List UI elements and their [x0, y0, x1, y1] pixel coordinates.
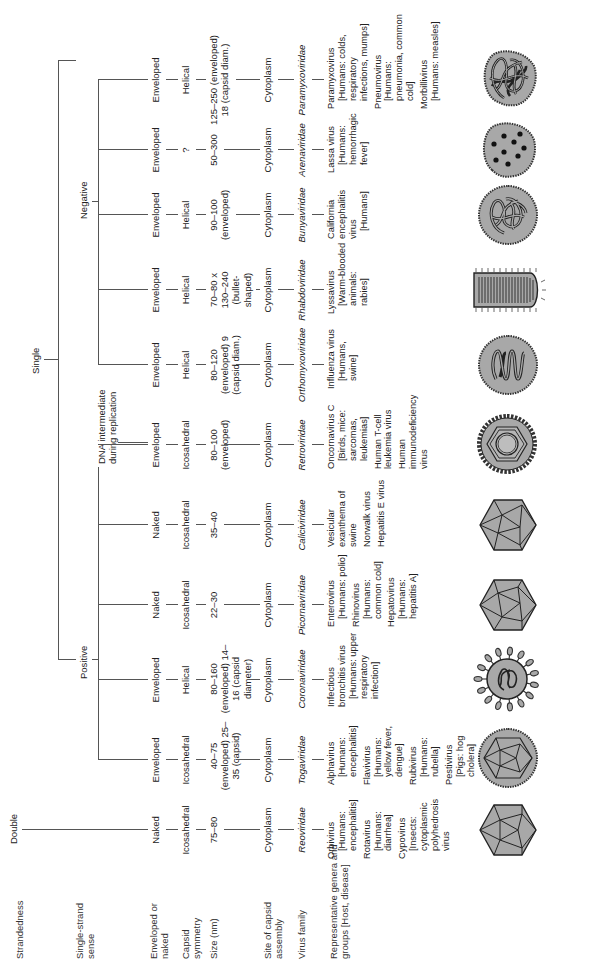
rhabdovirus-bullet-icon [470, 268, 546, 312]
row-label-site-of-assembly: Site of capsid assembly [262, 889, 284, 959]
family-name: Orthomyxoviridae [296, 325, 307, 405]
site: Cytoplasm [262, 415, 273, 475]
row-label-virus-family: Virus family [296, 849, 307, 959]
representatives: California encephalitis virus[Humans] [326, 173, 373, 239]
size: 70–80 x 130–240 (bullet-shaped) [208, 265, 253, 315]
tree-line [58, 60, 76, 61]
row-label-capsid-symmetry: Capsid symmetry [180, 899, 202, 959]
family-name: Rhabdoviridae [296, 255, 307, 325]
size: 35–40 [208, 495, 219, 555]
family-name: Coronaviridae [296, 641, 307, 717]
symmetry: Helical [180, 50, 191, 110]
size: 125–250 (enveloped) 18 (capsid diam.) [208, 35, 230, 125]
tree-line [98, 524, 148, 525]
size: 50–300 [208, 120, 219, 180]
coronavirus-icon [474, 646, 540, 712]
arenavirus-icon [478, 120, 538, 180]
tree-line [98, 80, 99, 365]
family-name: Bunyaviridae [296, 180, 307, 250]
site: Cytoplasm [262, 50, 273, 110]
picornavirus-icosahedron-icon [478, 575, 538, 635]
site: Cytoplasm [262, 800, 273, 860]
tree-node-positive: Positive [78, 643, 89, 682]
representatives: Oncornavirus C[Birds, mice: sarcomas, le… [326, 385, 433, 469]
envelope: Enveloped [150, 415, 161, 475]
tree-line [98, 79, 148, 80]
reovirus-icosahedron-icon [478, 800, 538, 860]
symmetry: ? [180, 120, 191, 180]
envelope: Naked [150, 495, 161, 555]
symmetry: Helical [180, 650, 191, 710]
tree-line [98, 679, 148, 680]
tree-line [98, 214, 148, 215]
size: 40–75 (enveloped) 25–35 (capsid) [208, 717, 242, 795]
row-label-size: Size (nm) [208, 849, 219, 959]
row-label-enveloped-or-naked: Enveloped or naked [148, 889, 170, 959]
retrovirus-icon [474, 411, 540, 477]
envelope: Enveloped [150, 335, 161, 395]
bunyavirus-icon [476, 183, 540, 247]
size: 80–100 (enveloped) [208, 405, 230, 485]
symmetry: Icosahedral [180, 415, 191, 475]
tree-line [98, 759, 148, 760]
orthomyxovirus-icon [476, 333, 540, 397]
tree-line [22, 829, 148, 830]
row-label-representatives: Representative genera and groups [Host, … [328, 844, 350, 959]
family-name: Reoviridae [296, 795, 307, 865]
site: Cytoplasm [262, 120, 273, 180]
representatives: Infectious bronchitis virus[Humans: uppe… [326, 625, 383, 707]
symmetry: Icosahedral [180, 495, 191, 555]
row-label-strandedness: Strandedness [14, 849, 25, 959]
envelope: Enveloped [150, 50, 161, 110]
tree-node-dna-intermediate: DNA intermediate during replication [96, 361, 118, 467]
site: Cytoplasm [262, 650, 273, 710]
representatives: Alphavirus[Humans: encephalitis] Flavivi… [326, 709, 479, 785]
envelope: Naked [150, 575, 161, 635]
envelope: Enveloped [150, 260, 161, 320]
envelope: Enveloped [150, 730, 161, 790]
size: 90–100 (enveloped) [208, 185, 230, 245]
representatives: Enterovirus[Humans: polio] Rhinovirus[Hu… [326, 549, 422, 627]
envelope: Naked [150, 805, 161, 855]
representatives: Vesicular exanthema of swine Norwalk vir… [326, 473, 389, 547]
tree-line [98, 444, 148, 445]
tree-line [98, 604, 148, 605]
tree-line [58, 659, 76, 660]
symmetry: Icosahedral [180, 575, 191, 635]
representatives: Paramyxovirus[Humans: colds, respiratory… [326, 13, 444, 109]
tree-node-double: Double [8, 811, 19, 847]
representatives: Influenza virus[Humans, swine] [326, 317, 362, 389]
symmetry: Icosahedral [180, 800, 191, 860]
symmetry: Icosahedral [180, 730, 191, 790]
site: Cytoplasm [262, 185, 273, 245]
site: Cytoplasm [262, 495, 273, 555]
tree-line [98, 442, 99, 760]
site: Cytoplasm [262, 575, 273, 635]
tree-node-negative: Negative [78, 179, 89, 223]
tree-line [98, 149, 148, 150]
size: 22–30 [208, 575, 219, 635]
representatives: Orbivirus[Humans: encephalitis] Rotaviru… [326, 789, 455, 859]
representatives: Lyssavirus[Warm-blooded animals: rabies] [326, 242, 373, 314]
family-name: Arenaviridae [296, 115, 307, 185]
symmetry: Helical [180, 260, 191, 320]
envelope: Enveloped [150, 185, 161, 245]
site: Cytoplasm [262, 730, 273, 790]
tree-line [44, 359, 58, 360]
representatives: Lassa virus[Humans: hemorrhagic fever] [326, 109, 373, 173]
tree-line [58, 60, 59, 660]
togavirus-enveloped-icon [476, 726, 540, 790]
envelope: Enveloped [150, 120, 161, 180]
family-name: Togaviridae [296, 725, 307, 795]
tree-line [98, 364, 148, 365]
symmetry: Helical [180, 185, 191, 245]
paramyxovirus-icon [476, 46, 540, 110]
site: Cytoplasm [262, 260, 273, 320]
rna-virus-classification-diagram: Strandedness Single-strand sense Envelop… [0, 0, 594, 967]
symmetry: Helical [180, 335, 191, 395]
row-label-single-strand-sense: Single-strand sense [74, 899, 96, 959]
family-name: Paramyxoviridae [296, 40, 307, 120]
site: Cytoplasm [262, 335, 273, 395]
tree-line [98, 289, 148, 290]
size: 75–80 [208, 795, 219, 865]
